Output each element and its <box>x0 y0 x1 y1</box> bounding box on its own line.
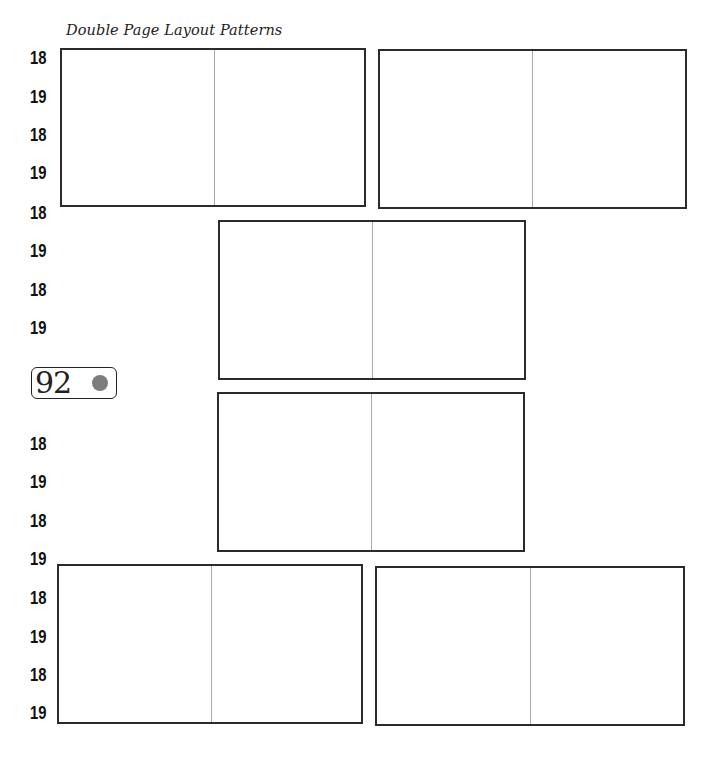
side-label: 18 <box>30 434 46 454</box>
page-title: Double Page Layout Patterns <box>66 22 282 38</box>
side-label: 18 <box>30 48 46 68</box>
spread-top-left <box>60 48 366 207</box>
spread-middle-lower <box>217 392 525 552</box>
side-label: 18 <box>30 203 46 223</box>
side-label: 18 <box>30 588 46 608</box>
side-label: 19 <box>30 87 46 107</box>
dot-icon <box>92 375 108 391</box>
page-number: 92 <box>35 365 71 400</box>
side-label: 19 <box>30 241 46 261</box>
side-label: 19 <box>30 472 46 492</box>
side-label: 19 <box>30 163 46 183</box>
spread-fold-line <box>532 51 533 207</box>
spread-bottom-left <box>57 564 363 724</box>
spread-fold-line <box>371 394 372 550</box>
side-label: 18 <box>30 280 46 300</box>
side-label: 18 <box>30 665 46 685</box>
spread-top-right <box>378 49 687 209</box>
spread-fold-line <box>211 566 212 722</box>
side-label: 19 <box>30 549 46 569</box>
spread-middle-upper <box>218 220 526 380</box>
side-label: 19 <box>30 703 46 723</box>
side-label: 18 <box>30 511 46 531</box>
spread-fold-line <box>530 568 531 724</box>
page-number-badge: 92 <box>31 367 117 399</box>
side-label: 19 <box>30 318 46 338</box>
spread-bottom-right <box>375 566 685 726</box>
spread-fold-line <box>372 222 373 378</box>
side-label: 19 <box>30 627 46 647</box>
spread-fold-line <box>214 50 215 205</box>
side-label: 18 <box>30 125 46 145</box>
